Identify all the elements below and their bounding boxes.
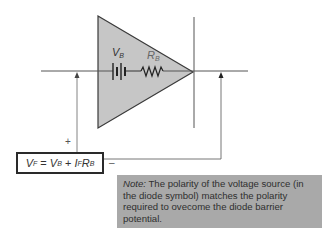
- right-arrow-icon: [219, 72, 224, 78]
- battery-label: VB: [112, 46, 124, 59]
- note-label: Note:: [123, 178, 146, 189]
- plus-sign: +: [65, 136, 71, 147]
- forward-voltage-formula: VF = VB + IF RB: [16, 152, 104, 174]
- resistor-label: RB: [147, 49, 160, 62]
- diode-triangle: [98, 16, 193, 128]
- left-arrow-icon: [75, 72, 80, 78]
- note-text: The polarity of the voltage source (in t…: [123, 178, 304, 224]
- minus-sign: –: [109, 157, 115, 168]
- note-box: Note: The polarity of the voltage source…: [117, 175, 322, 228]
